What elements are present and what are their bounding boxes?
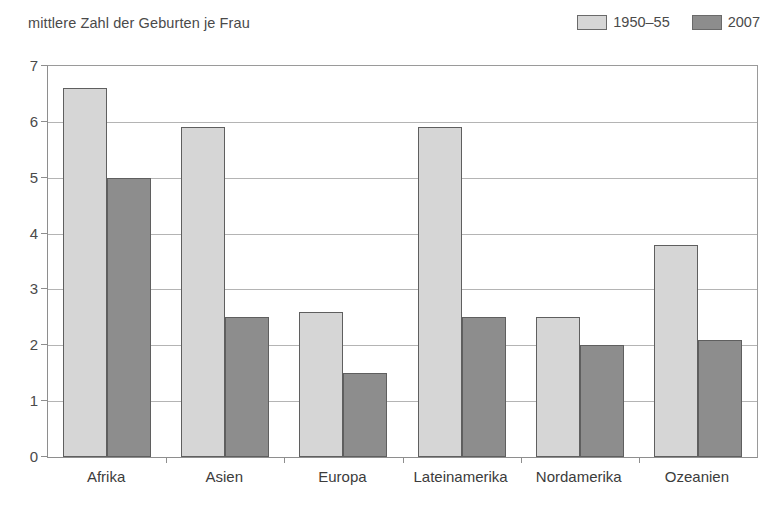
bar bbox=[418, 127, 462, 457]
y-tick-label: 0 bbox=[10, 448, 38, 465]
bar bbox=[698, 340, 742, 457]
y-tick-label: 1 bbox=[10, 392, 38, 409]
y-tick-label: 5 bbox=[10, 168, 38, 185]
y-axis: 01234567 bbox=[0, 65, 38, 458]
plot-area bbox=[47, 65, 758, 458]
x-tick-label: Asien bbox=[205, 468, 243, 485]
legend-entry: 1950–55 bbox=[577, 14, 669, 30]
chart-header: mittlere Zahl der Geburten je Frau 1950–… bbox=[0, 0, 780, 48]
bar bbox=[225, 317, 269, 457]
y-tick-label: 4 bbox=[10, 224, 38, 241]
bar-group bbox=[181, 66, 269, 457]
bar bbox=[462, 317, 506, 457]
bar bbox=[343, 373, 387, 457]
legend-entry: 2007 bbox=[692, 14, 760, 30]
legend-label: 1950–55 bbox=[613, 14, 669, 30]
x-tick-label: Ozeanien bbox=[665, 468, 729, 485]
legend-swatch-icon bbox=[692, 15, 722, 30]
x-tick-label: Nordamerika bbox=[536, 468, 622, 485]
bar-group bbox=[418, 66, 506, 457]
bar-chart: mittlere Zahl der Geburten je Frau 1950–… bbox=[0, 0, 780, 505]
bar-group bbox=[536, 66, 624, 457]
bar-group bbox=[654, 66, 742, 457]
bar bbox=[181, 127, 225, 457]
bar bbox=[63, 88, 107, 457]
bar bbox=[536, 317, 580, 457]
bars-layer bbox=[48, 66, 757, 457]
bar bbox=[299, 312, 343, 457]
bar bbox=[580, 345, 624, 457]
bar-group bbox=[299, 66, 387, 457]
legend-swatch-icon bbox=[577, 15, 607, 30]
chart-legend: 1950–552007 bbox=[577, 14, 760, 30]
y-tick-label: 2 bbox=[10, 336, 38, 353]
bar bbox=[107, 178, 151, 457]
x-axis: AfrikaAsienEuropaLateinamerikaNordamerik… bbox=[47, 462, 758, 492]
chart-axis-caption: mittlere Zahl der Geburten je Frau bbox=[28, 15, 250, 31]
y-tick-label: 6 bbox=[10, 112, 38, 129]
y-tick-label: 3 bbox=[10, 280, 38, 297]
bar bbox=[654, 245, 698, 457]
bar-group bbox=[63, 66, 151, 457]
x-tick-label: Lateinamerika bbox=[413, 468, 507, 485]
x-tick-label: Afrika bbox=[87, 468, 125, 485]
y-tick-label: 7 bbox=[10, 57, 38, 74]
legend-label: 2007 bbox=[728, 14, 760, 30]
x-tick-label: Europa bbox=[318, 468, 366, 485]
